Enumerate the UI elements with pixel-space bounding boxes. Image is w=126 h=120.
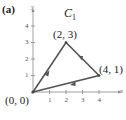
y-tick-4: 4 [25, 23, 29, 30]
point-label-4-1: (4, 1) [99, 64, 123, 75]
curve-c1 [33, 43, 99, 93]
point-label-2-3: (2, 3) [53, 29, 77, 40]
point-label-origin: (0, 0) [5, 95, 29, 106]
x-tick-1: 1 [48, 97, 52, 104]
x-tick-2: 2 [65, 97, 69, 104]
panel-label: (a) [2, 4, 15, 15]
y-tick-1: 1 [25, 72, 29, 79]
vertex-2-3 [65, 41, 68, 44]
chart-title: C1 [64, 8, 76, 23]
vertex-origin [31, 90, 34, 93]
y-tick-2: 2 [25, 56, 29, 63]
y-tick-3: 3 [25, 39, 29, 46]
x-tick-3: 3 [81, 97, 85, 104]
y-axis-label: y [31, 3, 34, 11]
x-tick-4: 4 [98, 97, 102, 104]
x-axis-label: x [120, 87, 123, 95]
